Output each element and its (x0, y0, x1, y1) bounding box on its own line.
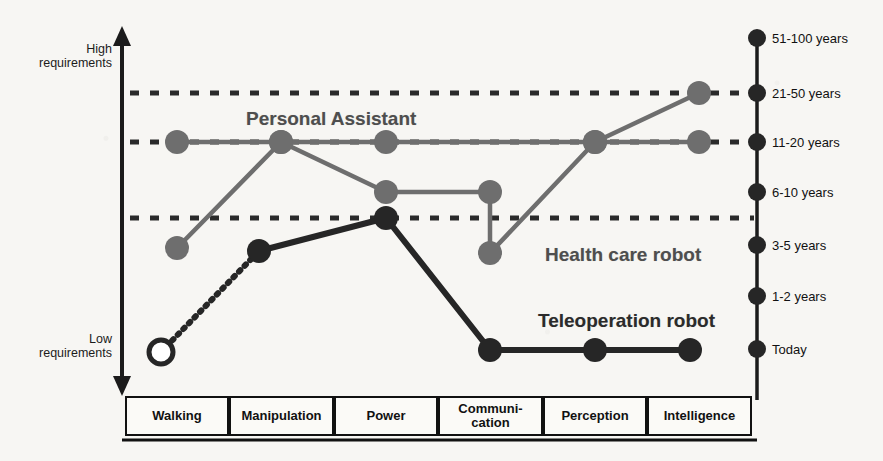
series-segment-0 (595, 93, 699, 142)
timeline-tick-dot (748, 236, 766, 254)
axis-arrow-down-icon (113, 376, 131, 396)
data-point (583, 338, 607, 362)
series-label-health-care-robot: Health care robot (545, 244, 701, 266)
timeline-tick-label-0: 51-100 years (772, 31, 848, 46)
data-point (247, 239, 271, 263)
axis-label-high-requirements: High requirements (8, 42, 112, 71)
series-segment-1 (177, 142, 281, 248)
data-point (374, 206, 398, 230)
chart-canvas: High requirements Low requirements 51-10… (0, 0, 883, 461)
right-timeline-axis (748, 29, 766, 400)
data-point (687, 81, 711, 105)
timeline-tick-label-6: Today (772, 342, 807, 357)
data-point (478, 338, 502, 362)
timeline-tick-label-4: 3-5 years (772, 238, 826, 253)
data-point (374, 130, 398, 154)
timeline-tick-dot (748, 287, 766, 305)
axis-arrow-up-icon (113, 26, 131, 46)
data-point (165, 236, 189, 260)
timeline-tick-label-5: 1-2 years (772, 289, 826, 304)
data-point (478, 241, 502, 265)
data-point (374, 180, 398, 204)
data-point (165, 130, 189, 154)
timeline-tick-dot (748, 29, 766, 47)
roadmap-chart-svg (0, 0, 883, 461)
timeline-tick-dot (748, 133, 766, 151)
category-cell-walking[interactable]: Walking (125, 396, 229, 436)
category-cell-power[interactable]: Power (334, 396, 438, 436)
series-segment-2 (386, 218, 490, 350)
category-cell-intelligence[interactable]: Intelligence (647, 396, 752, 436)
timeline-tick-dot (748, 183, 766, 201)
timeline-tick-label-2: 11-20 years (772, 135, 840, 150)
data-point (149, 340, 173, 364)
category-cell-communi-cation[interactable]: Communi-cation (438, 396, 543, 436)
timeline-tick-label-3: 6-10 years (772, 185, 833, 200)
data-point (478, 180, 502, 204)
series-segment-1 (490, 142, 595, 253)
category-cell-perception[interactable]: Perception (543, 396, 647, 436)
axis-label-low-requirements: Low requirements (8, 332, 112, 361)
data-point (687, 130, 711, 154)
data-point (269, 130, 293, 154)
series-segment-1 (281, 142, 386, 192)
series-segment-2 (259, 218, 386, 251)
series-segment-2 (161, 251, 259, 352)
series-label-teleoperation-robot: Teleoperation robot (538, 310, 715, 332)
timeline-tick-dot (748, 84, 766, 102)
timeline-tick-label-1: 21-50 years (772, 86, 841, 101)
data-point (583, 130, 607, 154)
timeline-tick-dot (748, 340, 766, 358)
series-label-personal-assistant: Personal Assistant (246, 108, 416, 130)
data-point (678, 338, 702, 362)
category-cell-manipulation[interactable]: Manipulation (229, 396, 334, 436)
left-requirements-axis (113, 26, 131, 396)
